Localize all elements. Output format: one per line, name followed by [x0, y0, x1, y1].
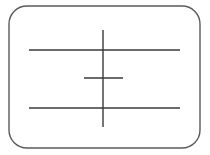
rounded-rectangle-frame: [9, 6, 200, 148]
line-drawing-svg: [0, 0, 210, 155]
drawing-canvas: [0, 0, 210, 155]
